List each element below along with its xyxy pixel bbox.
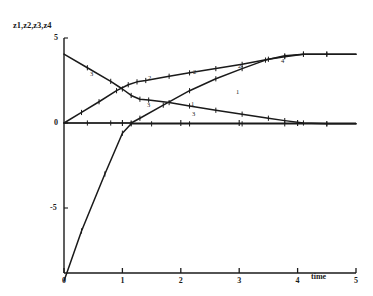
y-tick-label: 5 (54, 33, 58, 42)
series-line-1 (64, 54, 356, 123)
curve-identifier-label: 3 (90, 70, 93, 77)
y-tick-label: 0 (54, 118, 58, 127)
x-tick-label: 4 (296, 276, 300, 285)
curve-identifier-label: 3 (192, 110, 195, 117)
x-tick-label: 3 (237, 276, 241, 285)
curve-identifier-label: 2 (148, 74, 151, 81)
curves-layer (64, 54, 356, 281)
line-chart-plot (0, 0, 373, 296)
curve-identifier-label: 2 (238, 62, 241, 69)
chart-figure: z1,z2,z3,z4 01234550-5 322233114 time (0, 0, 373, 296)
x-tick-label: 0 (62, 276, 66, 285)
axes-layer (64, 38, 356, 273)
x-tick-label: 5 (354, 276, 358, 285)
series-line-3 (64, 54, 356, 124)
curve-identifier-label: 4 (281, 57, 284, 64)
curve-identifier-label: 1 (191, 100, 194, 107)
y-tick-label: -5 (50, 203, 57, 212)
curve-identifier-label: 1 (236, 88, 239, 95)
x-tick-label: 2 (179, 276, 183, 285)
curve-identifier-label: 3 (147, 101, 150, 108)
series-line-4 (64, 124, 356, 281)
y-axis-title: z1,z2,z3,z4 (13, 20, 51, 30)
series-line-2 (64, 54, 356, 123)
x-axis-title: time (311, 272, 326, 281)
curve-identifier-label: 2 (193, 68, 196, 75)
x-tick-label: 1 (120, 276, 124, 285)
